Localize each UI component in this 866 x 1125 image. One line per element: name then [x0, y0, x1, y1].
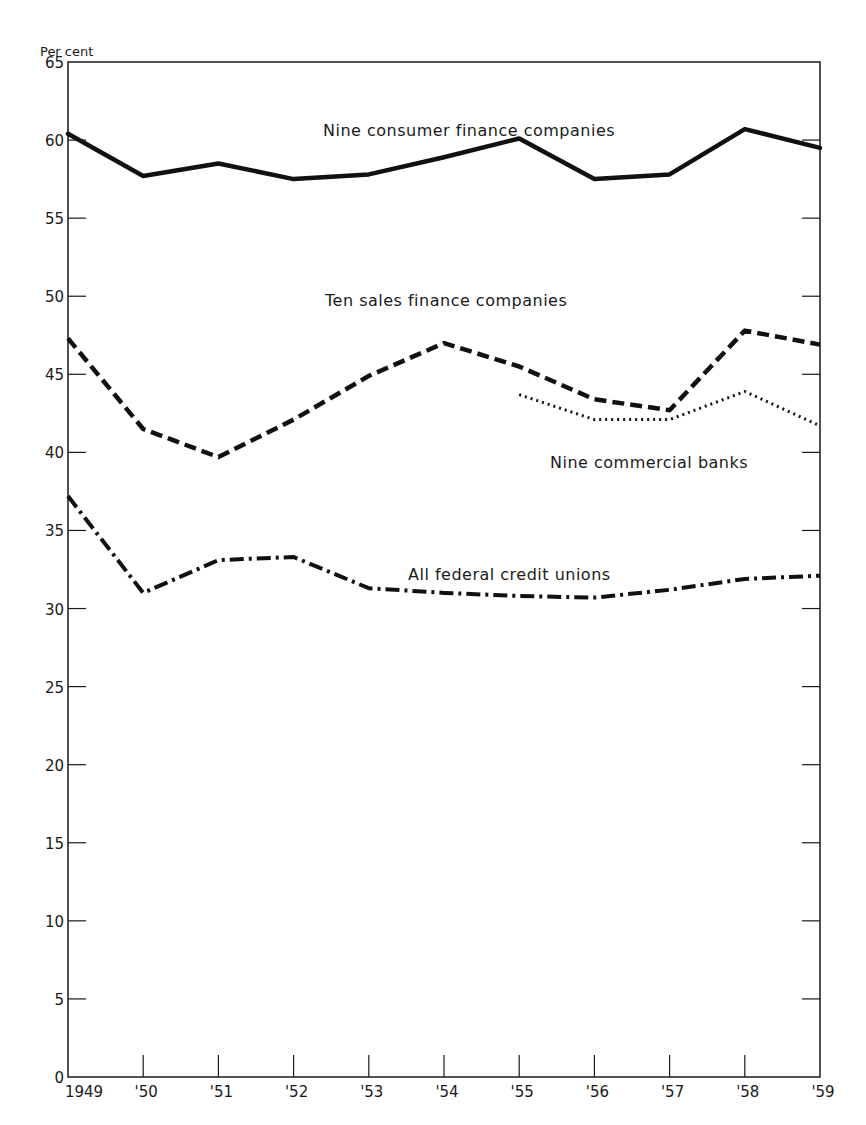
- y-tick-label: 50: [45, 288, 64, 306]
- y-tick-label: 5: [54, 991, 64, 1009]
- y-tick-label: 40: [45, 444, 64, 462]
- x-tick-label: '51: [210, 1083, 233, 1101]
- x-tick-label: '52: [285, 1083, 308, 1101]
- y-tick-label: 10: [45, 913, 64, 931]
- series-label-commercial-banks: Nine commercial banks: [550, 453, 748, 472]
- x-tick-label: '54: [435, 1083, 458, 1101]
- x-tick-label: '57: [661, 1083, 684, 1101]
- y-tick-label: 30: [45, 601, 64, 619]
- x-axis: 1949'50'51'52'53'54'55'56'57'58'59: [65, 1055, 835, 1101]
- y-tick-label: 55: [45, 210, 64, 228]
- series-line-ten-sales-finance-companies: [68, 331, 820, 458]
- series-lines: [68, 129, 820, 597]
- series-label-credit-unions: All federal credit unions: [408, 565, 611, 584]
- x-tick-label: 1949: [65, 1083, 103, 1101]
- x-tick-label: '56: [586, 1083, 609, 1101]
- series-label-sales-finance: Ten sales finance companies: [324, 291, 567, 310]
- x-tick-label: '53: [360, 1083, 383, 1101]
- y-tick-label: 15: [45, 835, 64, 853]
- x-tick-label: '58: [736, 1083, 759, 1101]
- y-tick-label: 20: [45, 757, 64, 775]
- y-tick-label: 45: [45, 366, 64, 384]
- y-tick-label: 25: [45, 679, 64, 697]
- x-tick-label: '59: [811, 1083, 834, 1101]
- y-tick-label: 0: [54, 1069, 64, 1087]
- y-tick-label: 35: [45, 522, 64, 540]
- series-label-consumer-finance: Nine consumer finance companies: [323, 121, 615, 140]
- x-tick-label: '50: [135, 1083, 158, 1101]
- x-tick-label: '55: [511, 1083, 534, 1101]
- y-tick-label: 65: [45, 54, 64, 72]
- line-chart: Per cent 05101520253035404550556065 1949…: [0, 0, 866, 1125]
- y-tick-label: 60: [45, 132, 64, 150]
